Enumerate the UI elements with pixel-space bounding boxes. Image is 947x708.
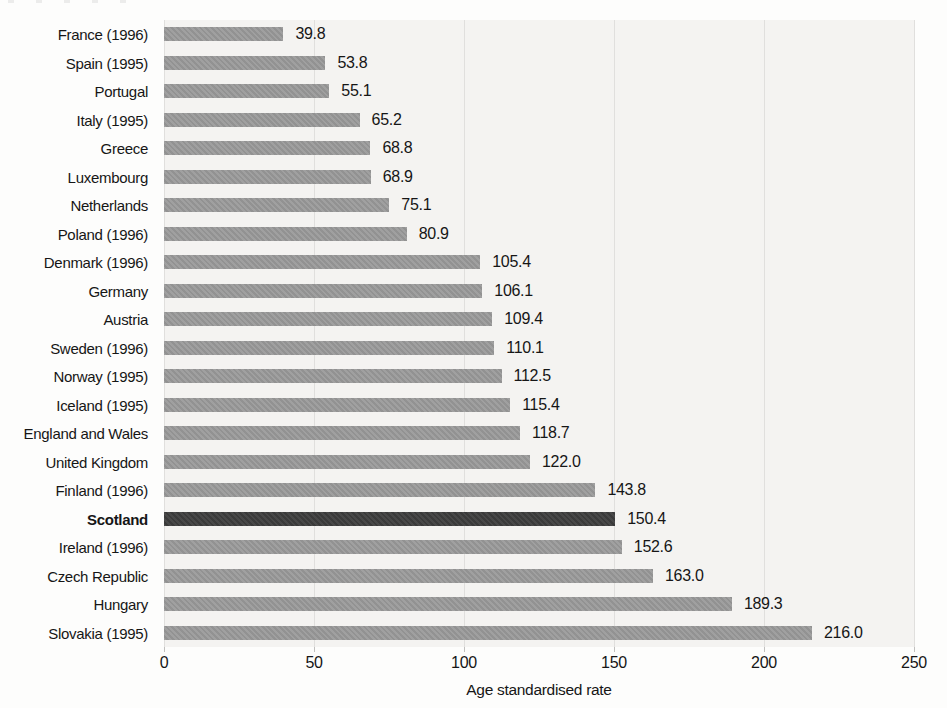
bar <box>164 512 615 526</box>
category-label: Greece <box>0 140 148 157</box>
bar-value-label: 68.8 <box>382 139 412 157</box>
category-label: Germany <box>0 282 148 299</box>
category-label: Norway (1995) <box>0 368 148 385</box>
x-tick-label-100: 100 <box>451 654 477 672</box>
bar <box>164 626 812 640</box>
x-tick-label-50: 50 <box>305 654 322 672</box>
bar-value-label: 122.0 <box>542 453 581 471</box>
x-tick-label-250: 250 <box>901 654 927 672</box>
bar <box>164 569 653 583</box>
x-tick-label-200: 200 <box>751 654 777 672</box>
bar-value-label: 68.9 <box>383 168 413 186</box>
category-label: Iceland (1995) <box>0 396 148 413</box>
x-axis-title: Age standardised rate <box>164 681 914 699</box>
bar-value-label: 115.4 <box>522 396 559 414</box>
category-label: Netherlands <box>0 197 148 214</box>
x-tick-mark-100 <box>464 647 465 652</box>
x-tick-mark-150 <box>614 647 615 652</box>
bar <box>164 540 622 554</box>
bar <box>164 341 494 355</box>
bar-value-label: 106.1 <box>494 282 533 300</box>
category-label: Spain (1995) <box>0 54 148 71</box>
category-label: Scotland <box>0 510 148 527</box>
category-label: United Kingdom <box>0 453 148 470</box>
x-tick-mark-0 <box>164 647 165 652</box>
bar-value-label: 163.0 <box>665 567 704 585</box>
category-label: Denmark (1996) <box>0 254 148 271</box>
bar-value-label: 80.9 <box>419 225 449 243</box>
plot-panel: 39.853.855.165.268.868.975.180.9105.4106… <box>164 20 914 647</box>
bar-value-label: 152.6 <box>634 538 673 556</box>
bar <box>164 455 530 469</box>
bar-value-label: 53.8 <box>337 54 367 72</box>
bar-value-label: 105.4 <box>492 253 531 271</box>
bar <box>164 284 482 298</box>
bar-value-label: 216.0 <box>824 624 863 642</box>
category-label: Portugal <box>0 83 148 100</box>
bar-value-label: 39.8 <box>295 25 325 43</box>
category-label: Luxembourg <box>0 168 148 185</box>
bar-value-label: 150.4 <box>627 510 666 528</box>
gridline-200 <box>764 20 765 647</box>
bar <box>164 597 732 611</box>
category-label: Sweden (1996) <box>0 339 148 356</box>
category-label: Hungary <box>0 596 148 613</box>
bar <box>164 255 480 269</box>
bar-value-label: 75.1 <box>401 196 431 214</box>
category-label: Ireland (1996) <box>0 539 148 556</box>
x-tick-mark-250 <box>914 647 915 652</box>
category-label: Finland (1996) <box>0 482 148 499</box>
scan-artifact <box>8 0 128 3</box>
category-label: Slovakia (1995) <box>0 624 148 641</box>
x-tick-mark-50 <box>314 647 315 652</box>
bar <box>164 84 329 98</box>
category-label: Czech Republic <box>0 567 148 584</box>
bar <box>164 483 595 497</box>
bar-value-label: 109.4 <box>504 310 543 328</box>
bar <box>164 312 492 326</box>
bar-value-label: 55.1 <box>341 82 371 100</box>
bar <box>164 227 407 241</box>
bar <box>164 170 371 184</box>
bar <box>164 398 510 412</box>
bar-value-label: 189.3 <box>744 595 783 613</box>
category-labels: France (1996)Spain (1995)PortugalItaly (… <box>0 20 156 647</box>
x-tick-label-0: 0 <box>160 654 169 672</box>
bar <box>164 141 370 155</box>
gridline-250 <box>914 20 915 647</box>
category-label: France (1996) <box>0 26 148 43</box>
bar <box>164 198 389 212</box>
category-label: Austria <box>0 311 148 328</box>
category-label: Poland (1996) <box>0 225 148 242</box>
bar <box>164 27 283 41</box>
x-axis: 050100150200250 <box>164 647 914 681</box>
bar-value-label: 118.7 <box>532 424 569 442</box>
x-tick-label-150: 150 <box>601 654 627 672</box>
bar-value-label: 110.1 <box>506 339 543 357</box>
bar-value-label: 112.5 <box>514 367 551 385</box>
chart-page: France (1996)Spain (1995)PortugalItaly (… <box>0 0 947 708</box>
bar <box>164 426 520 440</box>
x-tick-mark-200 <box>764 647 765 652</box>
category-label: England and Wales <box>0 425 148 442</box>
bar-value-label: 65.2 <box>372 111 402 129</box>
bar <box>164 369 502 383</box>
bar-value-label: 143.8 <box>607 481 646 499</box>
bar <box>164 56 325 70</box>
category-label: Italy (1995) <box>0 111 148 128</box>
bar <box>164 113 360 127</box>
